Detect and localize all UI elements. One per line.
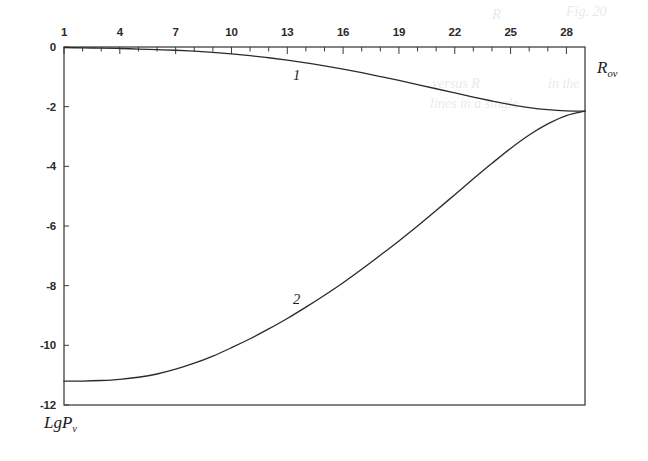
y-tick-label: -6 [20,220,56,232]
x-tick-label: 13 [281,26,293,38]
x-axis-title: Rov [597,58,617,79]
x-axis-title-subscript: ov [607,68,617,79]
y-axis-title: LgPv [44,413,77,434]
plot-area [0,0,648,461]
x-tick-label: 19 [393,26,405,38]
curve-label-1: 1 [293,67,300,84]
y-tick-label: 0 [20,41,56,53]
x-tick-label: 22 [449,26,461,38]
x-tick-label: 10 [225,26,237,38]
x-tick-label: 1 [61,26,67,38]
x-tick-label: 4 [117,26,123,38]
y-tick-label: -10 [20,339,56,351]
x-tick-label: 28 [560,26,572,38]
y-tick-label: -8 [20,280,56,292]
data-curve-2 [64,111,585,381]
x-tick-label: 25 [504,26,516,38]
x-axis-title-main: R [597,58,607,77]
x-tick-label: 7 [172,26,178,38]
axes-frame [64,47,585,405]
y-tick-label: -12 [20,399,56,411]
data-curve-1 [64,48,585,112]
y-tick-label: -4 [20,160,56,172]
figure-container: Fig. 20 R versus R in the lines in a sin… [0,0,648,461]
curve-label-2: 2 [293,291,300,308]
y-tick-label: -2 [20,101,56,113]
x-tick-label: 16 [337,26,349,38]
y-axis-title-main: LgP [44,413,72,432]
y-axis-title-subscript: v [72,423,77,434]
